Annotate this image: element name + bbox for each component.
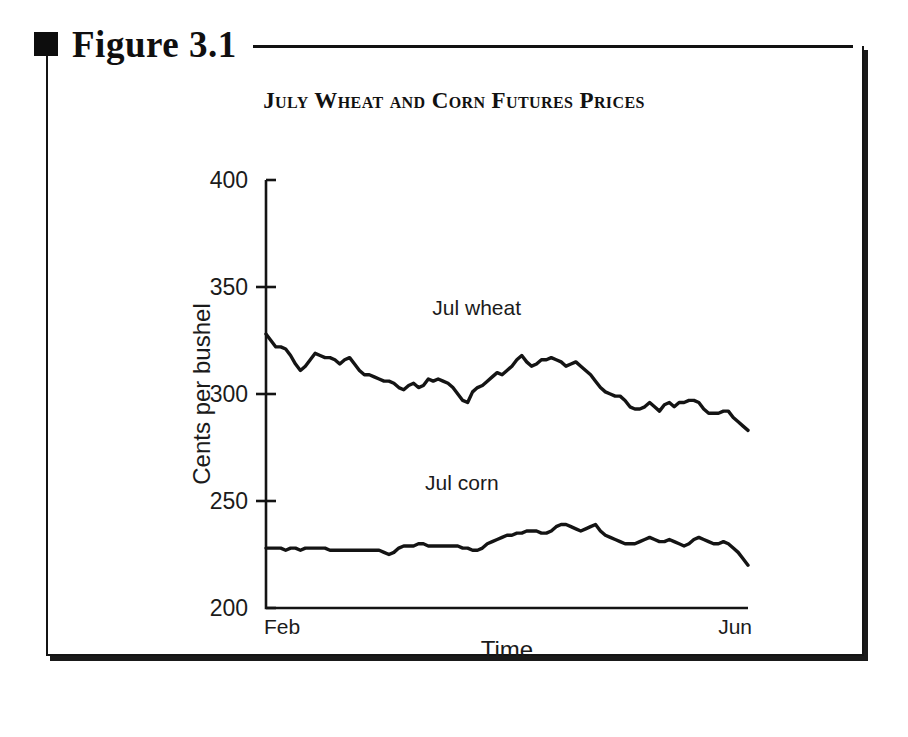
figure-header-rule bbox=[253, 45, 853, 48]
square-bullet-icon bbox=[34, 32, 58, 56]
figure-header: Figure 3.1 bbox=[34, 22, 853, 66]
figure-box bbox=[46, 46, 864, 656]
chart-title: July Wheat and Corn Futures Prices bbox=[0, 88, 908, 114]
figure-label: Figure 3.1 bbox=[72, 26, 237, 63]
